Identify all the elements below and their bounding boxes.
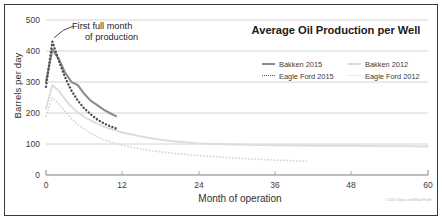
legend-label-bakken-2015: Bakken 2015 bbox=[279, 60, 322, 69]
y-axis-label: Barrels per day bbox=[12, 41, 23, 131]
ytick-label-100: 100 bbox=[14, 140, 40, 149]
legend-row-2: Eagle Ford 2015 Eagle Ford 2012 bbox=[262, 70, 434, 82]
chart-title: Average Oil Production per Well bbox=[238, 24, 434, 36]
xtick-label-36: 36 bbox=[263, 181, 287, 190]
legend-item-bakken-2012[interactable]: Bakken 2012 bbox=[348, 60, 434, 69]
xtick-label-12: 12 bbox=[110, 181, 134, 190]
legend-swatch-solid-light-icon bbox=[348, 60, 361, 68]
x-axis-label: Month of operation bbox=[150, 193, 330, 204]
legend-swatch-dotted-dark-icon bbox=[262, 72, 275, 80]
xtick-label-60: 60 bbox=[416, 181, 440, 190]
legend-label-bakken-2012: Bakken 2012 bbox=[365, 60, 408, 69]
ytick-label-500: 500 bbox=[14, 16, 40, 25]
legend-swatch-dotted-light-icon bbox=[348, 72, 361, 80]
legend-item-eagle-ford-2012[interactable]: Eagle Ford 2012 bbox=[348, 72, 434, 81]
xtick-label-24: 24 bbox=[187, 181, 211, 190]
chart-figure: 500 400 300 200 100 0 0 12 24 36 48 60 B… bbox=[0, 0, 442, 220]
ytick-label-0: 0 bbox=[14, 171, 40, 180]
chart-credit: © 2016 Oilpro.com/ShaleProfile bbox=[352, 198, 432, 202]
annotation-first-full-month: First full month of production bbox=[72, 21, 138, 43]
legend-label-eagle-ford-2015: Eagle Ford 2015 bbox=[279, 72, 334, 81]
chart-legend: Bakken 2015 Bakken 2012 Eagle Ford 2015 … bbox=[262, 58, 434, 82]
legend-row-1: Bakken 2015 Bakken 2012 bbox=[262, 58, 434, 70]
legend-item-eagle-ford-2015[interactable]: Eagle Ford 2015 bbox=[262, 72, 348, 81]
legend-swatch-solid-dark-icon bbox=[262, 60, 275, 68]
xtick-label-0: 0 bbox=[34, 181, 58, 190]
legend-label-eagle-ford-2012: Eagle Ford 2012 bbox=[365, 72, 420, 81]
xtick-label-48: 48 bbox=[339, 181, 363, 190]
annotation-line-2: of production bbox=[72, 32, 138, 43]
legend-item-bakken-2015[interactable]: Bakken 2015 bbox=[262, 60, 348, 69]
annotation-line-1: First full month bbox=[72, 21, 132, 31]
